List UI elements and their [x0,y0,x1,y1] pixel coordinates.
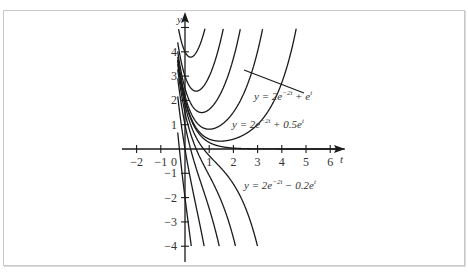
svg-text:3: 3 [171,69,177,83]
label-c05: y = 2e−2t + 0.5et [231,117,305,130]
svg-text:2: 2 [171,93,177,107]
curve-family [178,29,345,246]
svg-text:3: 3 [255,155,261,169]
solution-curves-plot: −2−10123456−4−3−2−11234 y t y = 2e−2t + … [0,0,468,274]
svg-text:2: 2 [230,155,236,169]
y-axis-label: y [176,13,182,25]
svg-text:6: 6 [327,155,333,169]
svg-text:−2: −2 [130,155,143,169]
svg-text:−1: −1 [164,166,177,180]
svg-text:−2: −2 [164,191,177,205]
label-cneg02: y = 2e−2t − 0.2et [243,178,317,191]
svg-text:1: 1 [171,118,177,132]
label-c1: y = 2e−2t + et [253,89,313,102]
axes [122,12,345,262]
svg-text:4: 4 [279,155,285,169]
t-axis-label: t [340,153,344,165]
svg-text:1: 1 [206,155,212,169]
svg-text:5: 5 [303,155,309,169]
svg-text:−3: −3 [164,215,177,229]
svg-text:−4: −4 [164,239,177,253]
curve [179,29,205,57]
curve [178,64,258,246]
svg-text:4: 4 [171,45,177,59]
